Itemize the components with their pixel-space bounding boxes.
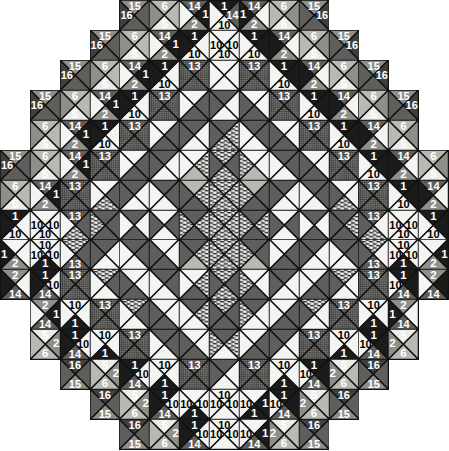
quilt-tile: 13: [358, 239, 388, 270]
quilt-tile: [179, 269, 209, 300]
quilt-tile: 11410: [388, 269, 418, 300]
quilt-tile: 526: [149, 419, 179, 450]
quilt-tile: 142: [299, 60, 329, 91]
quilt-tile: 1516: [299, 0, 329, 31]
quilt-tile: 110: [358, 150, 388, 181]
quilt-tile: 65: [90, 60, 120, 91]
quilt-tile: [209, 60, 239, 91]
quilt-tile: [209, 329, 239, 360]
quilt-tile: 21: [0, 239, 30, 270]
quilt-tile: 1412: [30, 180, 60, 211]
quilt-tile: 101: [149, 359, 179, 390]
quilt-tile: 13: [119, 329, 149, 360]
quilt-tile: 11410: [299, 359, 329, 390]
quilt-tile: [209, 359, 239, 390]
quilt-tile: 13: [329, 150, 359, 181]
quilt-tile: 13: [329, 299, 359, 330]
quilt-tile: [179, 210, 209, 241]
quilt-tile: 526: [119, 389, 149, 420]
quilt-tile: 142: [329, 90, 359, 121]
quilt-tile: 1412: [60, 120, 90, 151]
quilt-tile: 142: [388, 150, 418, 181]
quilt-tile: 562: [299, 389, 329, 420]
quilt-tile: [239, 210, 269, 241]
quilt-tile: [90, 210, 120, 241]
quilt-tile: [179, 299, 209, 330]
quilt-tile: 13: [60, 269, 90, 300]
quilt-tile: [149, 329, 179, 360]
quilt-tile: 13: [299, 329, 329, 360]
quilt-tile: 142: [269, 30, 299, 61]
quilt-tile: 2141: [388, 299, 418, 330]
quilt-tile: 13: [358, 269, 388, 300]
quilt-tile: [149, 150, 179, 181]
quilt-tile: 110: [388, 180, 418, 211]
quilt-tile: 11014: [30, 269, 60, 300]
quilt-tile: [90, 180, 120, 211]
quilt-tile: [209, 299, 239, 330]
quilt-tile: 562: [269, 419, 299, 450]
quilt-tile: [90, 239, 120, 270]
quilt-tile: 13: [60, 180, 90, 211]
quilt-tile: [119, 299, 149, 330]
quilt-tile: 101010: [30, 210, 60, 241]
quilt-tile: 1412: [60, 150, 90, 181]
quilt-tile: 1010110: [388, 239, 418, 270]
quilt-tile: 562: [329, 359, 359, 390]
quilt-tile: 562: [388, 329, 418, 360]
quilt-tile: 526: [30, 329, 60, 360]
quilt-tile: [269, 329, 299, 360]
quilt-tile: 1615: [299, 419, 329, 450]
quilt-tile: 526: [90, 359, 120, 390]
quilt-tile: [179, 239, 209, 270]
quilt-tile: 11014: [149, 389, 179, 420]
quilt-tile: [209, 239, 239, 270]
quilt-tile: 110: [418, 210, 448, 241]
quilt-tile: 1516: [329, 30, 359, 61]
quilt-tile: [119, 150, 149, 181]
quilt-tile: 1412: [90, 90, 120, 121]
quilt-tile: [149, 210, 179, 241]
quilt-tile: [299, 269, 329, 300]
quilt-tile: 1516: [60, 60, 90, 91]
quilt-tile: [239, 120, 269, 151]
quilt-tile: [90, 269, 120, 300]
quilt-tile: [179, 180, 209, 211]
quilt-tile: 1516: [119, 0, 149, 31]
quilt-tile: [269, 299, 299, 330]
quilt-tile: [269, 239, 299, 270]
quilt-tile: 12: [418, 239, 448, 270]
quilt-tile: 1010110: [30, 239, 60, 270]
quilt-tile: 13: [90, 150, 120, 181]
quilt-tile: [299, 299, 329, 330]
quilt-tile: 11410: [358, 329, 388, 360]
quilt-tile: 101010: [388, 210, 418, 241]
quilt-tile: 2114: [30, 299, 60, 330]
quilt-tile: 11014: [119, 359, 149, 390]
quilt-tile: 65: [30, 150, 60, 181]
quilt-tile: 13: [60, 239, 90, 270]
quilt-tile: 1421: [239, 0, 269, 31]
quilt-tile: [119, 269, 149, 300]
quilt-tile: 11410: [269, 389, 299, 420]
quilt-tile: 110: [269, 60, 299, 91]
quilt-tile: [239, 239, 269, 270]
quilt-tile: 65: [0, 180, 30, 211]
quilt-tile: 65: [30, 120, 60, 151]
quilt-tile: [239, 180, 269, 211]
quilt-tile: [209, 90, 239, 121]
quilt-tile: 1516: [90, 30, 120, 61]
quilt-tile: 11014: [60, 329, 90, 360]
quilt-tile: [149, 269, 179, 300]
quilt-tile: 1615: [358, 359, 388, 390]
quilt-tile: 1516: [30, 90, 60, 121]
quilt-tile: 1412: [119, 60, 149, 91]
quilt-tile: [269, 210, 299, 241]
quilt-tile: 13: [60, 210, 90, 241]
quilt-tile: 142: [358, 120, 388, 151]
quilt-tile: 110: [90, 120, 120, 151]
quilt-tile: [299, 180, 329, 211]
quilt-tile: 101: [329, 329, 359, 360]
quilt-tile: [269, 120, 299, 151]
quilt-tile: 13: [149, 90, 179, 121]
